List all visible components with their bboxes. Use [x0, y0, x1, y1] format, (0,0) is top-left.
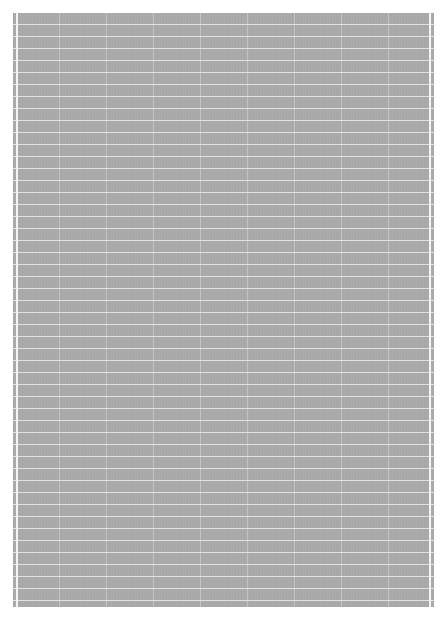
left-edge-stripe — [16, 13, 18, 607]
grid-paper-sheet — [13, 13, 434, 607]
canvas — [0, 0, 446, 622]
right-edge-stripe — [429, 13, 431, 607]
